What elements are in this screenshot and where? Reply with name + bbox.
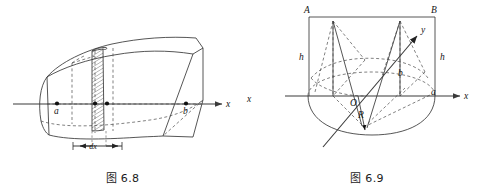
hidden-construction-lines-6-8 [41, 48, 203, 133]
label-R-6-9: R [357, 110, 364, 120]
label-x-axis-6-9: x [463, 91, 469, 101]
figure-6-8-canvas: a b x dx [0, 0, 245, 191]
caption-figure-6-9: 图 6.9 [245, 169, 489, 185]
figure-6-8: a b x dx 图 6.8 [0, 0, 245, 191]
label-h-right-6-9: h [440, 52, 445, 62]
figure-6-9: A B h h O R b a y x x 图 6.9 [245, 0, 489, 191]
inner-ellipse-6-9 [311, 58, 428, 96]
point-a-marker [55, 101, 59, 105]
label-y-axis-6-9: y [420, 25, 426, 35]
dx-dimension-6-8: dx [73, 131, 122, 151]
label-b-6-8: b [183, 106, 188, 116]
label-h-left-6-9: h [299, 52, 304, 62]
caption-6-8-text: 图 6.8 [106, 172, 140, 185]
label-x-axis-6-8: x [225, 99, 231, 109]
label-a-6-9: a [431, 87, 436, 97]
point-x-plus-dx-marker [105, 101, 109, 105]
label-O-6-9: O [350, 98, 357, 108]
slab-element-6-8 [92, 47, 107, 131]
label-B-6-9: B [431, 5, 437, 15]
rectangle-AB-6-9 [309, 17, 435, 96]
caption-6-9-text: 图 6.9 [350, 172, 384, 185]
wedge-construction-6-9 [315, 21, 430, 128]
base-circle-6-9 [308, 72, 435, 135]
label-dx-6-8: dx [89, 142, 97, 151]
label-a-6-8: a [54, 106, 59, 116]
y-axis-6-9 [323, 36, 417, 147]
label-b-6-9: b [398, 68, 403, 78]
caption-figure-6-8: 图 6.8 [0, 169, 245, 185]
figure-page: a b x dx 图 6.8 [0, 0, 489, 191]
label-x-axis-secondary-6-9: x [246, 94, 252, 104]
figure-6-9-canvas: A B h h O R b a y x x [245, 0, 489, 191]
solid-body-6-8 [40, 37, 203, 139]
point-b-marker [184, 101, 188, 105]
label-A-6-9: A [303, 5, 310, 15]
point-x-marker [93, 101, 97, 105]
